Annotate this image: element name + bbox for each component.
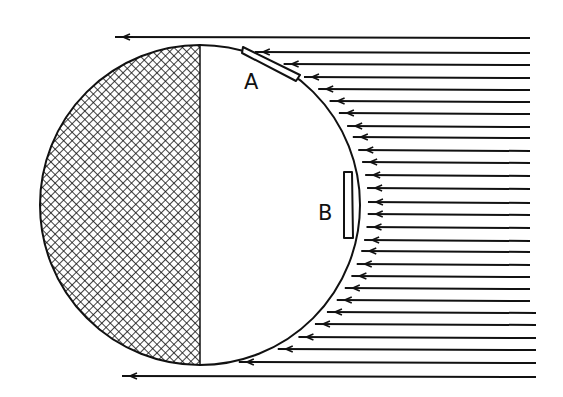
sun-ray bbox=[315, 324, 536, 325]
sun-ray bbox=[345, 288, 530, 289]
sun-ray bbox=[366, 227, 530, 228]
sun-ray bbox=[351, 276, 530, 277]
earth-sphere bbox=[40, 45, 360, 365]
sun-ray bbox=[353, 137, 530, 138]
sun-ray bbox=[298, 337, 536, 338]
sun-ray bbox=[318, 89, 530, 90]
sun-ray bbox=[304, 77, 530, 78]
sun-ray bbox=[339, 113, 530, 114]
sun-ray bbox=[365, 175, 530, 176]
sun-ray bbox=[347, 126, 530, 127]
sun-ray bbox=[367, 188, 530, 189]
sun-ray bbox=[327, 312, 536, 313]
sun-ray bbox=[122, 376, 536, 377]
sun-ray bbox=[361, 251, 530, 252]
sun-ray bbox=[364, 240, 530, 241]
sun-ray bbox=[115, 37, 530, 38]
sun-ray bbox=[368, 202, 530, 203]
diagram-canvas: A B bbox=[0, 0, 563, 397]
sun-ray bbox=[362, 162, 530, 163]
sun-ray bbox=[330, 101, 530, 102]
sun-ray bbox=[278, 349, 536, 350]
label-b: B bbox=[318, 203, 332, 224]
sun-ray bbox=[368, 214, 530, 215]
sun-ray bbox=[337, 300, 530, 301]
sun-rays-earth-diagram bbox=[0, 0, 563, 397]
label-a: A bbox=[244, 72, 258, 93]
sun-ray bbox=[239, 362, 536, 363]
sun-ray bbox=[357, 264, 530, 265]
sun-ray bbox=[284, 64, 530, 65]
sun-ray bbox=[255, 52, 530, 53]
sun-ray bbox=[358, 150, 530, 151]
panel-b bbox=[344, 172, 353, 238]
